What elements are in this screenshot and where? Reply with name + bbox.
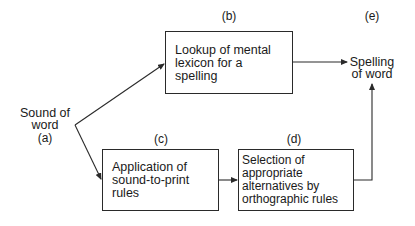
arrow-a-to-b	[75, 64, 164, 125]
node-c-sound-to-print-box: Application of sound-to-print rules	[102, 149, 219, 211]
node-b-tag: (b)	[218, 10, 240, 22]
node-c-tag: (c)	[150, 133, 172, 145]
diagram-canvas: Sound of word (a) (b) Lookup of mental l…	[0, 0, 415, 226]
node-d-orthographic-selection-box: Selection of appropriate alternatives by…	[238, 149, 354, 211]
node-d-tag: (d)	[283, 133, 305, 145]
node-a-sound-of-word: Sound of word	[12, 107, 78, 131]
node-b-text: Lookup of mental lexicon for a spelling	[175, 43, 271, 82]
node-d-text: Selection of appropriate alternatives by…	[242, 154, 338, 206]
node-b-lexicon-lookup-box: Lookup of mental lexicon for a spelling	[165, 31, 293, 94]
arrow-a-to-c	[75, 125, 101, 179]
node-e-tag: (e)	[361, 10, 383, 22]
node-a-tag: (a)	[12, 132, 78, 144]
node-e-spelling-of-word: Spelling of word	[346, 56, 398, 80]
arrow-d-to-e	[353, 84, 372, 180]
node-c-text: Application of sound-to-print rules	[112, 161, 189, 200]
